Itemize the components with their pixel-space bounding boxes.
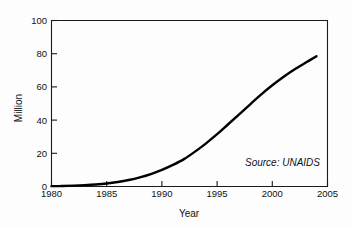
x-ticklabel-1980: 1980 xyxy=(41,188,62,199)
x-axis-title: Year xyxy=(179,208,200,219)
y-axis-ticks xyxy=(52,21,58,187)
x-ticklabel-1990: 1990 xyxy=(151,188,172,199)
x-ticklabel-1995: 1995 xyxy=(207,188,228,199)
x-ticklabel-2000: 2000 xyxy=(262,188,283,199)
x-ticklabel-2005: 2005 xyxy=(317,188,338,199)
y-axis-title: Million xyxy=(13,94,24,122)
chart-page: 0 20 40 60 80 100 1980 1985 1990 1995 20… xyxy=(0,0,352,229)
y-ticklabel-100: 100 xyxy=(31,15,47,26)
line-chart: 0 20 40 60 80 100 1980 1985 1990 1995 20… xyxy=(0,0,352,229)
x-ticklabel-1985: 1985 xyxy=(96,188,117,199)
y-axis-tick-labels: 0 20 40 60 80 100 xyxy=(31,15,47,192)
x-axis-tick-labels: 1980 1985 1990 1995 2000 2005 xyxy=(41,188,338,199)
y-ticklabel-20: 20 xyxy=(36,148,47,159)
y-ticklabel-60: 60 xyxy=(36,81,47,92)
y-ticklabel-80: 80 xyxy=(36,48,47,59)
y-ticklabel-40: 40 xyxy=(36,115,47,126)
source-note: Source: UNAIDS xyxy=(245,157,320,168)
